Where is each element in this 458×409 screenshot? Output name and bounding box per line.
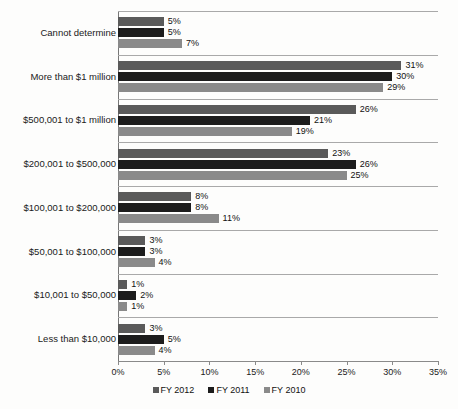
bar-value-label: 26% [360, 160, 378, 169]
x-axis-tick-mark [209, 361, 210, 365]
legend-swatch-fy-2012-icon [153, 387, 159, 393]
category-label: $500,001 to $1 million [3, 114, 116, 125]
bar-value-label: 5% [168, 28, 181, 37]
category-group: $500,001 to $1 million26%21%19% [118, 99, 438, 143]
bar-fy-2011 [118, 291, 136, 300]
chart-legend: FY 2012FY 2011FY 2010 [0, 385, 458, 395]
category-group: $10,001 to $50,0001%2%1% [118, 274, 438, 318]
category-label: $10,001 to $50,000 [3, 289, 116, 300]
category-label: Less than $10,000 [3, 333, 116, 344]
bar-value-label: 4% [159, 346, 172, 355]
bar-value-label: 4% [159, 258, 172, 267]
x-axis-tick-mark [347, 361, 348, 365]
bar-fy-2012 [118, 61, 401, 70]
bar-value-label: 1% [131, 280, 144, 289]
bar-value-label: 19% [296, 127, 314, 136]
category-separator [118, 317, 438, 318]
plot-area: Cannot determine5%5%7%More than $1 milli… [118, 11, 438, 361]
bar-value-label: 5% [168, 17, 181, 26]
bar-value-label: 7% [186, 39, 199, 48]
bar-fy-2010 [118, 258, 155, 267]
x-axis-tick-label: 30% [383, 367, 401, 377]
bar-fy-2011 [118, 335, 164, 344]
bar-value-label: 3% [149, 324, 162, 333]
bar-fy-2012 [118, 149, 328, 158]
x-axis-tick-mark [301, 361, 302, 365]
bar-fy-2012 [118, 236, 145, 245]
bar-value-label: 29% [387, 83, 405, 92]
category-separator [118, 230, 438, 231]
bar-fy-2011 [118, 203, 191, 212]
bar-value-label: 23% [332, 149, 350, 158]
bar-fy-2011 [118, 160, 356, 169]
bar-fy-2010 [118, 83, 383, 92]
legend-swatch-fy-2010-icon [264, 387, 270, 393]
category-separator [118, 274, 438, 275]
x-axis-tick-mark [392, 361, 393, 365]
category-separator [118, 55, 438, 56]
bar-value-label: 8% [195, 192, 208, 201]
bar-value-label: 1% [131, 302, 144, 311]
category-separator [118, 186, 438, 187]
category-group: More than $1 million31%30%29% [118, 55, 438, 99]
category-separator [118, 142, 438, 143]
bar-value-label: 5% [168, 335, 181, 344]
bar-fy-2012 [118, 192, 191, 201]
bar-fy-2010 [118, 346, 155, 355]
bar-fy-2010 [118, 39, 182, 48]
bar-fy-2012 [118, 17, 164, 26]
bar-fy-2011 [118, 247, 145, 256]
bar-value-label: 8% [195, 203, 208, 212]
bar-fy-2010 [118, 214, 219, 223]
category-label: $100,001 to $200,000 [3, 202, 116, 213]
category-label: $200,001 to $500,000 [3, 158, 116, 169]
legend-swatch-fy-2011-icon [208, 387, 214, 393]
x-axis-tick-mark [118, 361, 119, 365]
bar-value-label: 26% [360, 105, 378, 114]
x-axis-tick-label: 0% [111, 367, 124, 377]
bar-value-label: 2% [140, 291, 153, 300]
bar-value-label: 30% [396, 72, 414, 81]
x-axis-tick-mark [255, 361, 256, 365]
category-group: $200,001 to $500,00023%26%25% [118, 142, 438, 186]
bar-fy-2010 [118, 171, 347, 180]
x-axis-tick-mark [164, 361, 165, 365]
x-axis-tick-label: 20% [292, 367, 310, 377]
bar-value-label: 11% [223, 214, 240, 223]
bar-chart: Cannot determine5%5%7%More than $1 milli… [0, 0, 458, 409]
x-axis-tick-label: 10% [200, 367, 218, 377]
bar-value-label: 25% [351, 171, 369, 180]
bar-fy-2011 [118, 72, 392, 81]
category-group: $100,001 to $200,0008%8%11% [118, 186, 438, 230]
bar-value-label: 21% [314, 116, 332, 125]
legend-item-fy-2011[interactable]: FY 2011 [208, 385, 249, 395]
category-separator [118, 99, 438, 100]
x-axis-line [118, 361, 438, 362]
x-axis-tick-mark [438, 361, 439, 365]
bar-value-label: 3% [149, 236, 162, 245]
legend-item-fy-2012[interactable]: FY 2012 [153, 385, 195, 395]
category-separator [118, 11, 438, 12]
x-axis-tick-label: 35% [429, 367, 447, 377]
bar-value-label: 3% [149, 247, 162, 256]
bar-fy-2010 [118, 302, 127, 311]
category-group: Cannot determine5%5%7% [118, 11, 438, 55]
category-label: $50,001 to $100,000 [3, 246, 116, 257]
legend-label: FY 2012 [161, 385, 195, 395]
bar-fy-2011 [118, 116, 310, 125]
bar-value-label: 31% [405, 61, 423, 70]
legend-item-fy-2010[interactable]: FY 2010 [264, 385, 306, 395]
bar-fy-2012 [118, 280, 127, 289]
bar-fy-2010 [118, 127, 292, 136]
x-axis-tick-label: 25% [338, 367, 356, 377]
category-group: Less than $10,0003%5%4% [118, 317, 438, 361]
bar-fy-2012 [118, 105, 356, 114]
bar-fy-2011 [118, 28, 164, 37]
bar-fy-2012 [118, 324, 145, 333]
legend-label: FY 2010 [272, 385, 306, 395]
x-axis-tick-label: 15% [246, 367, 264, 377]
x-axis-tick-label: 5% [157, 367, 170, 377]
legend-label: FY 2011 [216, 385, 249, 395]
category-label: More than $1 million [3, 71, 116, 82]
category-label: Cannot determine [3, 27, 116, 38]
